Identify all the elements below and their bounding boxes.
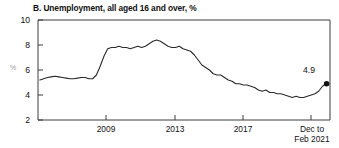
axis-frame (38, 20, 330, 120)
plot-area (0, 0, 339, 148)
x-axis-ticks (106, 115, 311, 120)
unemployment-chart: B. Unemployment, all aged 16 and over, %… (0, 0, 339, 148)
endpoint-marker (324, 81, 330, 87)
y-axis-ticks (38, 20, 43, 120)
unemployment-series-line (40, 40, 327, 98)
